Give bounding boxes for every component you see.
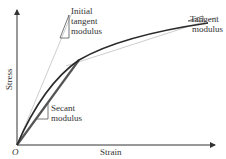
initial-tangent-triangle	[60, 15, 69, 38]
initial-tangent-label-1: Initial	[71, 7, 93, 16]
secant-label-1: Secant	[51, 104, 75, 113]
initial-tangent-line	[17, 13, 72, 145]
stress-strain-curve	[17, 23, 208, 145]
x-axis-label: Strain	[100, 148, 122, 157]
secant-label-2: modulus	[51, 114, 82, 123]
initial-tangent-label-2: tangent	[71, 17, 98, 26]
initial-tangent-label-3: modulus	[71, 27, 102, 36]
y-axis-label: Stress	[4, 68, 14, 90]
tangent-label-2: modulus	[192, 25, 223, 34]
origin-label: O	[12, 148, 19, 157]
stress-strain-diagram: Initial tangent modulus Tangent modulus …	[0, 0, 226, 159]
tangent-label-1: Tangent	[190, 15, 219, 24]
